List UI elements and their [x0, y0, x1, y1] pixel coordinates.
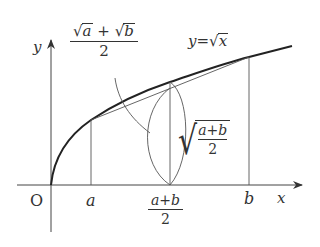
plus-sign: + — [97, 22, 110, 40]
top-fraction-numerator: √a + √b — [70, 23, 138, 41]
top-fraction-denominator: 2 — [99, 42, 109, 59]
tick-label-midpoint: a+b 2 — [148, 193, 183, 226]
radicand-a: a — [82, 23, 93, 39]
curve-equation-label: y=√x — [188, 33, 228, 49]
tick-label-a: a — [86, 193, 96, 209]
geometric-side-label: √ a+b 2 — [178, 120, 230, 156]
radical-denominator: 2 — [208, 140, 217, 156]
tick-label-b: b — [244, 191, 254, 207]
large-sqrt-symbol: √ — [178, 122, 197, 161]
brace-arc-chord-height — [148, 88, 171, 185]
midpoint-numerator: a+b — [148, 193, 183, 209]
equation-radicand: x — [218, 33, 228, 49]
leader-arc-top-fraction — [115, 78, 150, 133]
origin-label: O — [30, 193, 43, 209]
midpoint-denominator: 2 — [161, 210, 170, 226]
x-axis-label: x — [277, 191, 285, 206]
equals-sign: = — [196, 32, 209, 50]
radical-numerator: a+b — [198, 123, 227, 139]
arithmetic-mean-of-roots-label: √a + √b 2 — [70, 23, 138, 59]
sqrt-curve — [51, 46, 292, 185]
radicand-b: b — [123, 23, 135, 39]
y-axis-label: y — [33, 40, 41, 55]
